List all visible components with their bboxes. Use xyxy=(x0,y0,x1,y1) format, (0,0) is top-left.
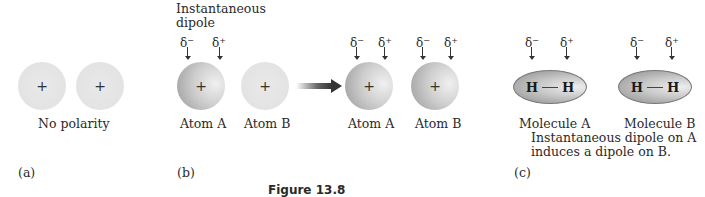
atom-no-polarity-2: + xyxy=(76,62,124,110)
hydrogen-atom: H xyxy=(667,80,679,95)
transition-arrow-icon xyxy=(296,83,332,89)
hydrogen-atom: H xyxy=(526,80,538,95)
minus-sign: − xyxy=(187,36,194,45)
down-arrow-icon xyxy=(356,47,357,57)
label-molecule-a: Molecule A xyxy=(519,117,590,131)
panel-label-b: (b) xyxy=(177,166,195,180)
nucleus-plus-icon: + xyxy=(411,62,459,110)
caption-no-polarity: No polarity xyxy=(38,117,109,131)
delta-negative-label: δ− xyxy=(415,35,431,49)
label-atom-b: Atom B xyxy=(415,117,461,131)
down-arrow-icon xyxy=(450,47,451,57)
hydrogen-atom: H xyxy=(562,80,574,95)
delta-negative-label: δ− xyxy=(349,35,365,49)
molecule-b-h2: H H xyxy=(618,70,692,104)
plus-sign: + xyxy=(219,36,226,45)
minus-sign: − xyxy=(423,36,430,45)
nucleus-plus-icon: + xyxy=(76,62,124,110)
nucleus-plus-icon: + xyxy=(18,62,66,110)
delta-positive-label: δ+ xyxy=(559,35,575,49)
nucleus-plus-icon: + xyxy=(345,62,393,110)
atom-b-induced-dipole: + xyxy=(411,62,459,110)
atom-no-polarity-1: + xyxy=(18,62,66,110)
down-arrow-icon xyxy=(636,47,637,57)
down-arrow-icon xyxy=(671,47,672,57)
bond-line xyxy=(542,87,558,88)
delta-positive-label: δ+ xyxy=(377,35,393,49)
description-line-1: Instantaneous dipole on A xyxy=(531,131,696,145)
minus-sign: − xyxy=(532,36,539,45)
molecule-a-h2: H H xyxy=(513,70,587,104)
delta-negative-label: δ− xyxy=(629,35,645,49)
label-atom-a: Atom A xyxy=(348,117,394,131)
down-arrow-icon xyxy=(187,47,188,57)
title-dipole: dipole xyxy=(176,16,215,30)
down-arrow-icon xyxy=(384,47,385,57)
down-arrow-icon xyxy=(531,47,532,57)
panel-label-a: (a) xyxy=(18,166,35,180)
label-molecule-b: Molecule B xyxy=(624,117,695,131)
minus-sign: − xyxy=(637,36,644,45)
title-instantaneous: Instantaneous xyxy=(176,2,266,16)
atom-b-neutral: + xyxy=(241,62,289,110)
panel-label-c: (c) xyxy=(514,166,531,180)
plus-sign: + xyxy=(672,36,679,45)
down-arrow-icon xyxy=(219,47,220,57)
label-atom-a: Atom A xyxy=(180,117,226,131)
h-h-bond: H H xyxy=(619,71,691,103)
down-arrow-icon xyxy=(566,47,567,57)
down-arrow-icon xyxy=(422,47,423,57)
atom-a-dipole: + xyxy=(177,62,225,110)
description-line-2: induces a dipole on B. xyxy=(531,145,671,159)
delta-positive-label: δ+ xyxy=(664,35,680,49)
bond-line xyxy=(647,87,663,88)
label-atom-b: Atom B xyxy=(244,117,290,131)
h-h-bond: H H xyxy=(514,71,586,103)
hydrogen-atom: H xyxy=(631,80,643,95)
nucleus-plus-icon: + xyxy=(241,62,289,110)
nucleus-plus-icon: + xyxy=(177,62,225,110)
plus-sign: + xyxy=(567,36,574,45)
delta-negative-label: δ− xyxy=(524,35,540,49)
figure-caption: Figure 13.8 xyxy=(268,183,345,197)
delta-positive-label: δ+ xyxy=(443,35,459,49)
plus-sign: + xyxy=(385,36,392,45)
atom-a-dipole: + xyxy=(345,62,393,110)
minus-sign: − xyxy=(357,36,364,45)
plus-sign: + xyxy=(451,36,458,45)
